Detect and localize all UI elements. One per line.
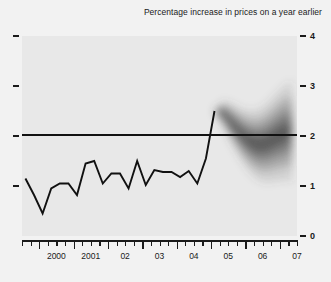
x-axis-tick-minor [168, 242, 169, 246]
y-axis-tick-right [300, 135, 306, 137]
x-axis-tick-minor [91, 242, 92, 246]
y-axis-tick-right [300, 85, 306, 87]
x-axis-tick-minor [151, 242, 152, 246]
y-axis-tick-right [300, 235, 306, 237]
x-axis-label: 05 [224, 251, 233, 261]
x-axis-tick-minor [31, 242, 32, 246]
y-axis-label: 0 [310, 231, 315, 241]
chart-page: Percentage increase in prices on a year … [0, 0, 331, 282]
x-axis-tick-minor [134, 242, 135, 246]
actual-inflation-line [22, 36, 297, 236]
x-axis-tick-minor [48, 242, 49, 246]
x-axis-tick-major [211, 242, 212, 249]
x-axis-tick-minor [297, 242, 298, 246]
x-axis-tick-minor [271, 242, 272, 246]
x-axis-tick-major [280, 242, 281, 249]
x-axis-tick-minor [56, 242, 57, 246]
x-axis-tick-major [108, 242, 109, 249]
x-axis-tick-minor [194, 242, 195, 246]
plot-area [22, 36, 297, 236]
x-axis-tick-minor [82, 242, 83, 246]
x-axis-tick-minor [65, 242, 66, 246]
chart-title: Percentage increase in prices on a year … [0, 7, 322, 17]
x-axis-tick-minor [202, 242, 203, 246]
x-axis-label: 07 [292, 251, 301, 261]
y-axis-label: 4 [310, 31, 315, 41]
x-axis-tick-major [74, 242, 75, 249]
x-axis-tick-major [245, 242, 246, 249]
y-axis-label: 3 [310, 81, 315, 91]
x-axis-tick-minor [99, 242, 100, 246]
x-axis-tick-major [39, 242, 40, 249]
x-axis-tick-minor [254, 242, 255, 246]
x-axis-tick-minor [288, 242, 289, 246]
y-axis-label: 1 [310, 181, 315, 191]
y-axis-tick-right [300, 35, 306, 37]
x-axis-label: 06 [258, 251, 267, 261]
x-axis-tick-major [177, 242, 178, 249]
y-axis-tick-left [13, 135, 19, 137]
y-axis-label: 2 [310, 131, 315, 141]
x-axis-tick-minor [22, 242, 23, 246]
x-axis-label: 02 [120, 251, 129, 261]
x-axis-label: 2001 [81, 251, 100, 261]
y-axis-tick-left [13, 185, 19, 187]
x-axis-tick-minor [228, 242, 229, 246]
x-axis-label: 04 [189, 251, 198, 261]
x-axis-tick-minor [220, 242, 221, 246]
y-axis-tick-left [13, 85, 19, 87]
x-axis-tick-minor [185, 242, 186, 246]
y-axis-tick-left [13, 35, 19, 37]
y-axis-tick-right [300, 185, 306, 187]
x-axis-tick-minor [263, 242, 264, 246]
inflation-target-line [22, 134, 297, 136]
x-axis-tick-minor [117, 242, 118, 246]
x-axis-tick-major [142, 242, 143, 249]
x-axis-tick-minor [237, 242, 238, 246]
x-axis-tick-minor [125, 242, 126, 246]
x-axis-label: 2000 [47, 251, 66, 261]
x-axis-tick-minor [160, 242, 161, 246]
x-axis-label: 03 [155, 251, 164, 261]
